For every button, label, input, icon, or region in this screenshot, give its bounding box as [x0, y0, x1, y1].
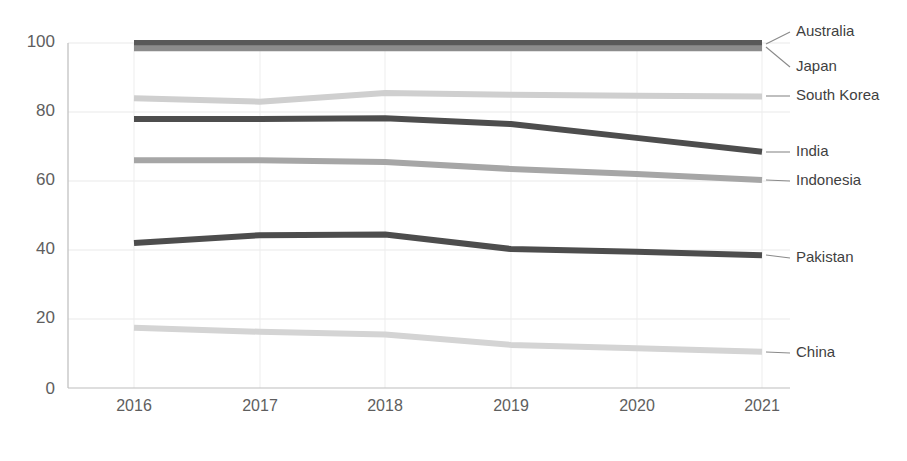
x-axis-tick-labels: 2016 2017 2018 2019 2020 2021	[116, 397, 780, 414]
x-tick-label-2016: 2016	[116, 397, 152, 414]
y-tick-label-100: 100	[27, 32, 55, 51]
series-label-pakistan: Pakistan	[796, 248, 854, 265]
y-tick-label-0: 0	[46, 379, 55, 398]
series-label-south-korea: South Korea	[796, 86, 880, 103]
series-label-australia: Australia	[796, 22, 855, 39]
series-label-china: China	[796, 343, 836, 360]
series-label-india: India	[796, 142, 829, 159]
series-inline-labels: Australia Japan South Korea India Indone…	[796, 22, 880, 360]
x-tick-label-2017: 2017	[242, 397, 278, 414]
series-line-pakistan	[134, 234, 762, 255]
leader-line-australia	[766, 32, 790, 44]
chart-canvas: 100 80 60 40 20 0 2016 2017 2018 2019 20…	[0, 0, 907, 461]
x-tick-label-2021: 2021	[744, 397, 780, 414]
series-lines	[134, 43, 762, 352]
series-label-indonesia: Indonesia	[796, 171, 862, 188]
x-tick-label-2019: 2019	[493, 397, 529, 414]
series-leader-lines	[766, 32, 790, 353]
leader-line-pakistan	[766, 255, 790, 258]
y-tick-label-60: 60	[36, 170, 55, 189]
leader-line-china	[766, 352, 790, 353]
x-tick-label-2020: 2020	[619, 397, 655, 414]
y-axis-tick-labels: 100 80 60 40 20 0	[27, 32, 55, 398]
y-tick-label-20: 20	[36, 308, 55, 327]
series-line-china	[134, 328, 762, 352]
series-line-south-korea	[134, 93, 762, 102]
series-line-india	[134, 118, 762, 151]
x-tick-label-2018: 2018	[367, 397, 403, 414]
y-tick-label-80: 80	[36, 101, 55, 120]
gridlines-horizontal	[68, 43, 790, 319]
y-tick-label-40: 40	[36, 239, 55, 258]
series-label-japan: Japan	[796, 57, 837, 74]
leader-line-japan	[766, 47, 790, 67]
series-line-indonesia	[134, 160, 762, 180]
line-chart: 100 80 60 40 20 0 2016 2017 2018 2019 20…	[0, 0, 907, 461]
